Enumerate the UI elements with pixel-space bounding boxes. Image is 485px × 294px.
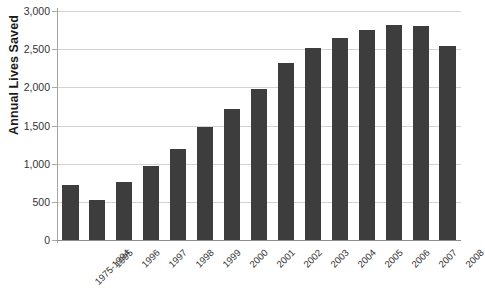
x-axis-tick-label: 2002	[301, 247, 324, 270]
x-axis-tick-label-text: 1995	[113, 247, 136, 270]
x-axis-tick-label-text: 1999	[220, 247, 243, 270]
bar[interactable]	[170, 149, 186, 240]
x-axis-tick-label: 2004	[355, 247, 378, 270]
x-axis-tick-label-text: 2006	[409, 247, 432, 270]
x-axis-tick-label: 2000	[247, 247, 270, 270]
x-axis-tick-label: 2005	[382, 247, 405, 270]
bar[interactable]	[251, 89, 267, 240]
x-axis-tick-label: 1997	[166, 247, 189, 270]
bar[interactable]	[439, 46, 455, 240]
x-axis-tick-label-text: 2002	[301, 247, 324, 270]
bar[interactable]	[116, 182, 132, 240]
x-axis-tick-label-text: 1998	[193, 247, 216, 270]
y-axis-tick-label: 1,000	[2, 159, 50, 169]
bar[interactable]	[143, 166, 159, 240]
x-axis-tick-label-text: 1997	[166, 247, 189, 270]
x-axis-tick-label-text: 2000	[247, 247, 270, 270]
y-axis-tick-mark	[52, 202, 57, 203]
y-axis-tick-label: 1,500	[2, 121, 50, 131]
x-axis-tick-label-text: 1996	[140, 247, 163, 270]
x-axis-tick-label-text: 2003	[328, 247, 351, 270]
bar[interactable]	[278, 63, 294, 240]
bar[interactable]	[386, 25, 402, 240]
y-axis-tick-label: 500	[2, 197, 50, 207]
y-axis-tick-mark	[52, 164, 57, 165]
x-axis-tick-label: 2007	[436, 247, 459, 270]
bar[interactable]	[197, 127, 213, 240]
bar[interactable]	[62, 185, 78, 240]
y-axis-tick-mark	[52, 49, 57, 50]
y-axis-tick-mark	[52, 11, 57, 12]
y-axis-tick-label: 2,500	[2, 44, 50, 54]
bar[interactable]	[224, 109, 240, 240]
y-axis-tick-mark	[52, 240, 57, 241]
x-axis-tick-label: 1996	[140, 247, 163, 270]
x-axis-tick-label-text: 2004	[355, 247, 378, 270]
x-axis-tick-label-text: 2008	[463, 247, 485, 270]
y-axis-tick-label: 3,000	[2, 6, 50, 16]
x-axis-tick-label: 2008	[463, 247, 485, 270]
y-axis-tick-mark	[52, 126, 57, 127]
bar[interactable]	[359, 30, 375, 240]
x-axis-tick-label-text: 2007	[436, 247, 459, 270]
y-axis-tick-label: 0	[2, 235, 50, 245]
y-axis-tick-mark	[52, 87, 57, 88]
x-axis-tick-label: 1998	[193, 247, 216, 270]
x-axis-tick-label-text: 2001	[274, 247, 297, 270]
x-axis-tick-label: 2001	[274, 247, 297, 270]
bar[interactable]	[89, 200, 105, 240]
y-axis-tick-label: 2,000	[2, 82, 50, 92]
x-axis-tick-label-text: 2005	[382, 247, 405, 270]
x-axis-tick-labels: 1975-19941995199619971998199920002001200…	[57, 241, 461, 294]
x-axis-tick-label: 2006	[409, 247, 432, 270]
x-axis-tick-label: 1999	[220, 247, 243, 270]
bar[interactable]	[332, 38, 348, 240]
bar[interactable]	[305, 48, 321, 240]
bars-layer	[57, 11, 461, 240]
bar[interactable]	[413, 26, 429, 240]
x-axis-tick-label: 1995	[113, 247, 136, 270]
y-axis-tick-labels: 3,0002,5002,0001,5001,0005000	[0, 0, 50, 294]
x-axis-tick-label: 2003	[328, 247, 351, 270]
